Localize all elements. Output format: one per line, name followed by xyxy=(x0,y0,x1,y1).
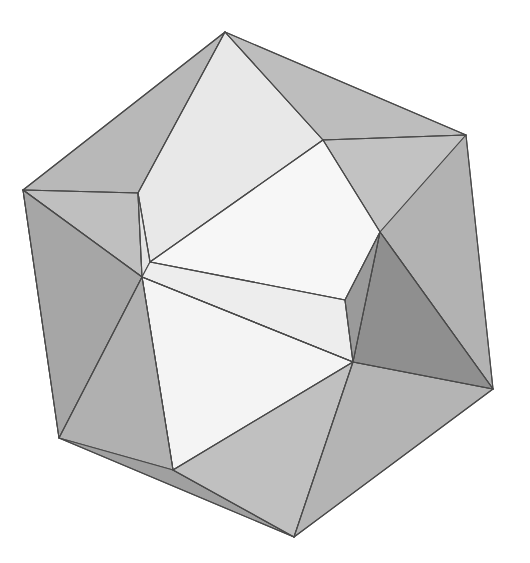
polyhedron-render-canvas xyxy=(0,0,530,563)
polyhedron-svg xyxy=(0,0,530,563)
